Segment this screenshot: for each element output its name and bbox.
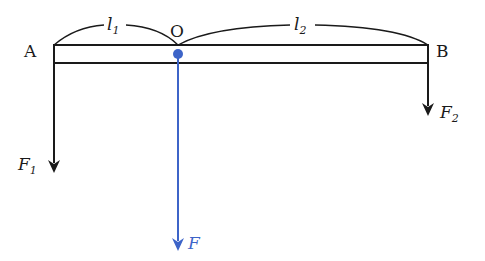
- point-a-label: A: [23, 41, 37, 61]
- force-f2-label: F2: [439, 102, 459, 125]
- force-f-label: F: [187, 233, 201, 253]
- force-f1-label: F1: [17, 154, 37, 177]
- length-l1-label: l1: [107, 14, 119, 37]
- point-b-label: B: [436, 41, 449, 61]
- force-f1-arrow: [48, 63, 60, 173]
- lever-diagram: A O B l1 l2 F1 F2 F: [0, 0, 485, 261]
- length-l2-label: l2: [294, 14, 306, 37]
- force-f2-arrow: [422, 63, 434, 116]
- point-o-label: O: [170, 21, 184, 41]
- force-f-arrow: [172, 49, 184, 251]
- beam: [54, 45, 428, 63]
